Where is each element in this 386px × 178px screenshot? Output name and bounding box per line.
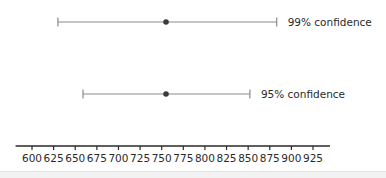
confidence-interval-chart: 99% confidence95% confidence 60062565067… [0,0,386,178]
interval-label: 99% confidence [288,16,372,28]
point-estimate-dot [163,19,169,25]
x-tick-label: 725 [130,152,150,164]
x-tick-label: 600 [22,152,42,164]
x-tick-label: 775 [173,152,193,164]
bottom-separator [0,171,386,178]
x-tick-label: 675 [87,152,107,164]
x-tick-label: 875 [260,152,280,164]
x-tick-label: 900 [281,152,301,164]
confidence-interval-95: 95% confidence [83,88,345,100]
x-tick-label: 800 [195,152,215,164]
point-estimate-dot [163,91,169,97]
x-tick-label: 625 [44,152,64,164]
x-tick-label: 650 [65,152,85,164]
x-axis: 6006256506757007257507758008258508759009… [16,146,330,164]
x-tick-label: 925 [303,152,323,164]
interval-label: 95% confidence [261,88,345,100]
x-tick-label: 825 [217,152,237,164]
confidence-interval-99: 99% confidence [58,16,372,28]
x-tick-label: 850 [238,152,258,164]
x-tick-label: 700 [108,152,128,164]
x-tick-label: 750 [152,152,172,164]
